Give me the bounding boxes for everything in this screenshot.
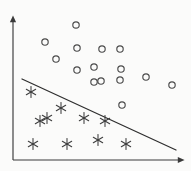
- data-point-asterisk: [26, 87, 35, 98]
- scatter-diagram: [0, 0, 191, 171]
- data-point-circle: [53, 56, 59, 62]
- diagram-canvas: [0, 0, 191, 171]
- data-point-asterisk: [100, 116, 109, 127]
- data-point-circle: [98, 78, 104, 84]
- data-point-asterisk: [62, 139, 71, 150]
- data-point-asterisk: [42, 113, 51, 124]
- data-point-circle: [119, 102, 125, 108]
- data-point-circle: [91, 79, 97, 85]
- data-point-circle: [74, 67, 80, 73]
- data-point-circle: [73, 22, 79, 28]
- data-point-circle: [117, 46, 123, 52]
- series-class-circles: [42, 22, 175, 108]
- data-point-asterisk: [56, 103, 65, 114]
- data-points-group: [26, 22, 175, 150]
- data-point-asterisk: [93, 135, 102, 146]
- data-point-circle: [42, 39, 48, 45]
- data-point-circle: [143, 74, 149, 80]
- data-point-asterisk: [79, 113, 88, 124]
- y-axis-arrowhead: [10, 15, 16, 22]
- series-class-asterisks: [26, 87, 130, 150]
- data-point-circle: [91, 64, 97, 70]
- data-point-circle: [74, 45, 80, 51]
- data-point-asterisk: [28, 139, 37, 150]
- data-point-asterisk: [35, 116, 44, 127]
- data-point-asterisk: [121, 139, 130, 150]
- x-axis-arrowhead: [178, 157, 185, 163]
- data-point-circle: [117, 77, 123, 83]
- data-point-circle: [118, 66, 124, 72]
- data-point-circle: [99, 46, 105, 52]
- data-point-circle: [169, 82, 175, 88]
